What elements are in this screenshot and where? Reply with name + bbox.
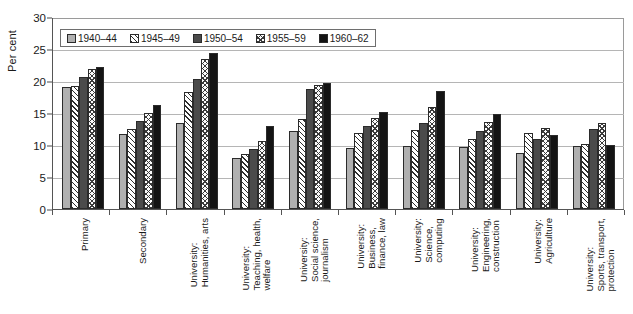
x-axis-label-cell: Secondary xyxy=(109,216,166,314)
legend-item[interactable]: 1950–54 xyxy=(193,33,243,44)
legend-item[interactable]: 1940–44 xyxy=(67,33,117,44)
legend-label: 1960–62 xyxy=(330,33,369,44)
bar xyxy=(541,128,549,209)
bar xyxy=(323,83,331,209)
bar xyxy=(493,114,501,209)
bar xyxy=(598,123,606,209)
bar-group xyxy=(565,18,622,209)
bar xyxy=(371,118,379,209)
x-axis-label-line: University: xyxy=(585,218,596,292)
bar xyxy=(419,123,427,209)
legend-item[interactable]: 1960–62 xyxy=(319,33,369,44)
x-axis-label-line: Primary xyxy=(80,218,91,251)
bar xyxy=(209,53,217,209)
x-axis-tick-mark xyxy=(452,210,453,215)
x-axis-label-line: University: xyxy=(299,218,310,282)
legend-swatch-icon xyxy=(130,34,139,43)
legend-item[interactable]: 1945–49 xyxy=(130,33,180,44)
bar xyxy=(533,139,541,209)
legend-swatch-icon xyxy=(193,34,202,43)
x-axis-label-line: University: xyxy=(356,218,367,269)
bar xyxy=(298,119,306,209)
x-axis-label-line: computing xyxy=(434,218,445,263)
bar xyxy=(476,131,484,209)
x-axis-label: University:Humanities, arts xyxy=(189,218,210,287)
x-axis-tick-mark xyxy=(109,210,110,215)
bar xyxy=(379,112,387,209)
x-axis-label: University:Teaching, health,welfare xyxy=(241,218,273,291)
x-axis-tick-mark xyxy=(510,210,511,215)
x-axis-label-cell: University:Sports, transport,protection xyxy=(567,216,624,314)
legend-label: 1950–54 xyxy=(204,33,243,44)
x-axis-label-line: finance, law xyxy=(377,218,388,269)
bar xyxy=(258,141,266,209)
y-axis-tick-label: 20 xyxy=(33,76,46,88)
bar xyxy=(468,139,476,209)
bar xyxy=(306,89,314,209)
bar-group xyxy=(509,18,566,209)
bar xyxy=(193,79,201,209)
y-axis-tick-label: 0 xyxy=(40,204,46,216)
bar xyxy=(589,129,597,209)
bar xyxy=(606,145,614,209)
bar xyxy=(354,133,362,209)
bar xyxy=(550,135,558,209)
legend-swatch-icon xyxy=(67,34,76,43)
legend-item[interactable]: 1955–59 xyxy=(256,33,306,44)
bar xyxy=(201,59,209,209)
legend-label: 1955–59 xyxy=(267,33,306,44)
x-axis-tick-mark xyxy=(624,210,625,215)
bar xyxy=(249,149,257,209)
bar xyxy=(184,92,192,209)
bar xyxy=(144,113,152,209)
x-axis-label-line: construction xyxy=(491,218,502,272)
x-axis-label-line: Social science, xyxy=(309,218,320,282)
bar xyxy=(428,107,436,209)
x-axis-label: University:Engineering,construction xyxy=(470,218,502,272)
x-axis-label-cell: University:Agriculture xyxy=(510,216,567,314)
legend-label: 1945–49 xyxy=(141,33,180,44)
x-axis-tick-mark xyxy=(224,210,225,215)
x-axis-label-line: protection xyxy=(606,218,617,292)
legend-swatch-icon xyxy=(319,34,328,43)
legend-swatch-icon xyxy=(256,34,265,43)
x-axis-label-line: University: xyxy=(533,218,544,264)
x-axis-label: University:Sports, transport,protection xyxy=(585,218,617,292)
x-axis-tick-mark xyxy=(338,210,339,215)
x-axis-label-line: welfare xyxy=(263,218,274,291)
bar xyxy=(232,158,240,209)
y-axis-tick-label: 10 xyxy=(33,140,46,152)
bar xyxy=(153,105,161,209)
bar xyxy=(524,133,532,209)
y-axis-tick-label: 15 xyxy=(33,108,46,120)
x-axis-label-line: Humanities, arts xyxy=(200,218,211,287)
x-axis-label-line: Secondary xyxy=(138,218,149,264)
x-axis-label-cell: University:Science,computing xyxy=(395,216,452,314)
bar xyxy=(71,86,79,209)
bar xyxy=(241,154,249,209)
x-axis-label: University:Business,finance, law xyxy=(356,218,388,269)
bar-group xyxy=(452,18,509,209)
bar xyxy=(96,67,104,209)
y-axis-tick-labels: 051015202530 xyxy=(16,18,52,210)
bar xyxy=(346,148,354,209)
x-axis-tick-mark xyxy=(52,210,53,215)
x-axis-ticks xyxy=(52,210,624,215)
bar-chart: Per cent 051015202530 PrimarySecondaryUn… xyxy=(0,0,633,314)
bar xyxy=(581,144,589,209)
legend: 1940–441945–491950–541955–591960–62 xyxy=(60,29,376,47)
x-axis-tick-mark xyxy=(281,210,282,215)
legend-label: 1940–44 xyxy=(78,33,117,44)
x-axis-label: University:Social science,journalism xyxy=(299,218,331,282)
bar xyxy=(79,77,87,209)
bar xyxy=(136,121,144,209)
bar xyxy=(403,146,411,209)
y-axis-tick-label: 5 xyxy=(40,172,46,184)
x-axis-tick-mark xyxy=(166,210,167,215)
x-axis-label-cell: University:Business,finance, law xyxy=(338,216,395,314)
x-axis-label-cell: Primary xyxy=(52,216,109,314)
bar xyxy=(127,129,135,209)
y-axis-tick-label: 30 xyxy=(33,12,46,24)
bar xyxy=(266,126,274,209)
x-axis-label-cell: University:Social science,journalism xyxy=(281,216,338,314)
